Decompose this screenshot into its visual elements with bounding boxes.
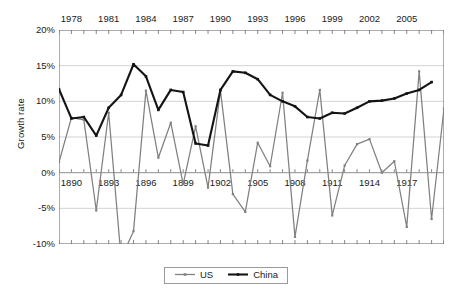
y-tick-label: 20% <box>21 24 55 35</box>
data-point-marker <box>170 122 172 124</box>
data-point-marker <box>157 157 159 159</box>
x-tick-label-top: 1999 <box>312 13 352 24</box>
data-point-marker <box>344 164 346 166</box>
data-point-marker <box>157 109 160 112</box>
data-point-marker <box>169 89 172 92</box>
data-point-marker <box>145 90 147 92</box>
data-point-marker <box>443 107 444 109</box>
data-point-marker <box>343 112 346 115</box>
y-tick-label: -5% <box>21 202 55 213</box>
data-point-marker <box>59 88 60 91</box>
y-tick-label: 5% <box>21 131 55 142</box>
data-point-marker <box>195 125 197 127</box>
plot-area <box>59 30 444 244</box>
data-point-marker <box>393 97 396 100</box>
y-tick-label: 10% <box>21 95 55 106</box>
data-point-marker <box>244 72 247 75</box>
data-point-marker <box>232 70 235 73</box>
data-point-marker <box>306 116 309 119</box>
data-point-marker <box>256 78 259 81</box>
data-point-marker <box>381 172 383 174</box>
data-point-marker <box>95 209 97 211</box>
data-point-marker <box>269 94 272 97</box>
data-point-marker <box>393 160 395 162</box>
x-tick-label-top: 1993 <box>238 13 278 24</box>
legend-item-us[interactable]: US <box>174 270 213 280</box>
growth-rate-line-chart: Growth rate 20%15%10%5%0%-5%-10% 1978198… <box>0 0 451 294</box>
data-point-marker <box>145 75 148 78</box>
data-point-marker <box>356 106 359 109</box>
data-point-marker <box>294 236 296 238</box>
x-tick-label-top: 2002 <box>349 13 389 24</box>
data-point-marker <box>294 105 297 108</box>
y-axis-title: Growth rate <box>15 74 26 174</box>
legend-swatch-us <box>174 270 196 279</box>
data-point-marker <box>319 89 321 91</box>
data-point-marker <box>132 230 134 232</box>
y-tick-label: 15% <box>21 60 55 71</box>
data-point-marker <box>368 138 370 140</box>
data-point-marker <box>356 143 358 145</box>
data-point-marker <box>132 63 135 66</box>
data-point-marker <box>232 193 234 195</box>
data-point-marker <box>59 161 60 163</box>
legend-label: China <box>253 270 278 280</box>
data-point-marker <box>194 142 197 145</box>
data-point-marker <box>430 218 432 220</box>
legend-label: US <box>200 270 213 280</box>
data-point-marker <box>83 116 86 119</box>
legend-item-china[interactable]: China <box>227 270 278 280</box>
legend-swatch-china <box>227 270 249 279</box>
data-point-marker <box>95 134 98 137</box>
x-tick-label-top: 1990 <box>200 13 240 24</box>
series-line-china <box>59 64 432 145</box>
data-point-marker <box>418 70 420 72</box>
data-point-marker <box>418 89 421 92</box>
data-point-marker <box>306 159 308 161</box>
data-point-marker <box>269 165 271 167</box>
data-point-marker <box>319 117 322 120</box>
data-point-marker <box>107 106 110 109</box>
data-point-marker <box>120 94 123 97</box>
data-point-marker <box>368 100 371 103</box>
data-point-marker <box>182 91 185 94</box>
x-tick-label-top: 1987 <box>163 13 203 24</box>
x-tick-label-top: 2005 <box>387 13 427 24</box>
data-point-marker <box>381 99 384 102</box>
data-point-marker <box>331 214 333 216</box>
data-point-marker <box>257 142 259 144</box>
data-point-marker <box>281 92 283 94</box>
y-tick-label: 0% <box>21 167 55 178</box>
x-tick-label-top: 1978 <box>51 13 91 24</box>
y-tick-label: -10% <box>21 238 55 249</box>
data-point-marker <box>182 183 184 185</box>
data-point-marker <box>430 81 433 84</box>
chart-legend: USChina <box>164 267 288 284</box>
data-point-marker <box>281 100 284 103</box>
data-point-marker <box>405 92 408 95</box>
data-point-marker <box>331 111 334 114</box>
x-tick-label-top: 1981 <box>89 13 129 24</box>
data-point-marker <box>219 89 222 92</box>
data-point-marker <box>207 187 209 189</box>
x-tick-label-top: 1996 <box>275 13 315 24</box>
x-tick-label-top: 1984 <box>126 13 166 24</box>
series-line-us <box>59 71 444 244</box>
data-point-marker <box>406 226 408 228</box>
data-point-marker <box>244 211 246 213</box>
data-point-marker <box>70 117 73 120</box>
data-point-marker <box>207 144 210 147</box>
